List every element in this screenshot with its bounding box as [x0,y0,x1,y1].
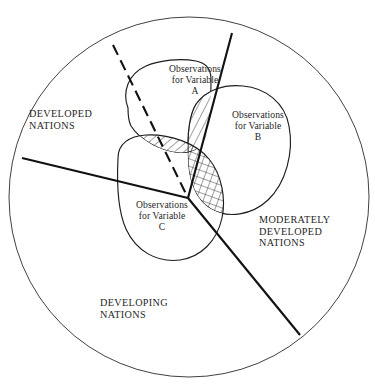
venn-diagram-svg [0,0,375,388]
venn-diagram-canvas: DEVELOPED NATIONS MODERATELY DEVELOPED N… [0,0,375,388]
